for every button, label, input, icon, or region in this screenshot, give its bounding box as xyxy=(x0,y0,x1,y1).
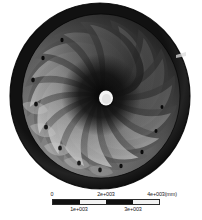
scale-top-labels: 0 2e+003 4e+003(mm) xyxy=(0,190,202,199)
impeller-figure xyxy=(0,0,202,192)
screenshot-root: 0 2e+003 4e+003(mm) 1e+003 3e+003 xyxy=(0,0,202,220)
scale-tick-label-3000: 3e+003 xyxy=(124,205,142,214)
scale-tick-label-1000: 1e+003 xyxy=(70,205,88,214)
scale-segment xyxy=(106,200,133,204)
scale-tick-label-4000: 4e+003(mm) xyxy=(147,190,177,199)
scale-segment xyxy=(80,200,107,204)
impeller-hub xyxy=(98,91,114,108)
scale-segment xyxy=(133,200,160,204)
scale-segment xyxy=(53,200,80,204)
scale-bar: 0 2e+003 4e+003(mm) 1e+003 3e+003 xyxy=(0,190,202,220)
impeller-render xyxy=(0,0,202,192)
scale-bottom-labels: 1e+003 3e+003 xyxy=(0,205,202,214)
scale-tick-label-2000: 2e+003 xyxy=(97,190,115,199)
scale-tick-label-0: 0 xyxy=(51,190,54,199)
